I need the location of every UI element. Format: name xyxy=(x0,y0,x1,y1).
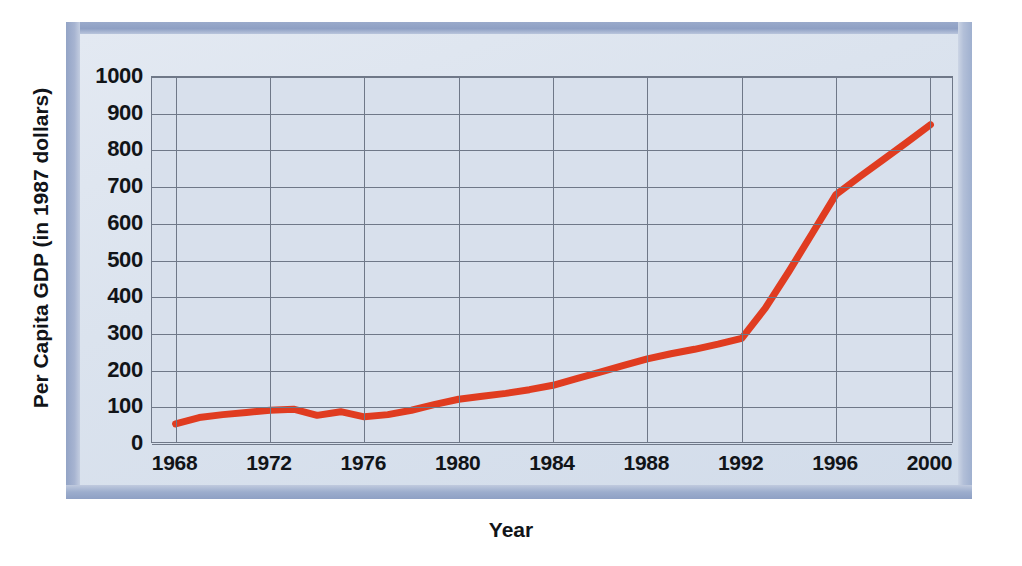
x-axis-title: Year xyxy=(0,518,1022,542)
y-tick-label: 900 xyxy=(57,102,143,124)
x-tick-label: 1992 xyxy=(696,452,786,473)
gridline-horizontal xyxy=(152,334,952,335)
frame-bevel-bottom xyxy=(66,485,972,499)
gridline-vertical xyxy=(930,77,931,442)
gridline-horizontal xyxy=(152,371,952,372)
y-tick-label: 300 xyxy=(57,322,143,344)
gridline-vertical xyxy=(836,77,837,442)
y-tick-label: 0 xyxy=(57,432,143,454)
x-tick-label: 1972 xyxy=(224,452,314,473)
gridline-horizontal xyxy=(152,77,952,78)
y-tick-label: 600 xyxy=(57,212,143,234)
gridline-vertical xyxy=(364,77,365,442)
x-axis-ticks: 196819721976198019841988199219962000 xyxy=(151,452,953,480)
y-axis-ticks: 01002003004005006007008009001000 xyxy=(55,76,143,443)
plot-area xyxy=(151,76,953,443)
y-axis-title: Per Capita GDP (in 1987 dollars) xyxy=(29,38,53,458)
gridline-vertical xyxy=(459,77,460,442)
gridline-horizontal xyxy=(152,224,952,225)
gridline-vertical xyxy=(647,77,648,442)
y-tick-label: 800 xyxy=(57,138,143,160)
x-tick-label: 1976 xyxy=(318,452,408,473)
y-tick-label: 700 xyxy=(57,175,143,197)
gridline-horizontal xyxy=(152,187,952,188)
y-tick-label: 400 xyxy=(57,285,143,307)
frame-bevel-right xyxy=(958,22,972,499)
gridline-vertical xyxy=(553,77,554,442)
gridline-vertical xyxy=(742,77,743,442)
gridline-horizontal xyxy=(152,297,952,298)
x-tick-label: 1984 xyxy=(507,452,597,473)
gridline-vertical xyxy=(176,77,177,442)
y-tick-label: 500 xyxy=(57,249,143,271)
frame-bevel-top xyxy=(66,22,972,34)
y-tick-label: 100 xyxy=(57,395,143,417)
gridline-horizontal xyxy=(152,114,952,115)
y-tick-label: 200 xyxy=(57,359,143,381)
x-tick-label: 1988 xyxy=(601,452,691,473)
gridline-horizontal xyxy=(152,407,952,408)
x-tick-label: 1968 xyxy=(130,452,220,473)
gridline-vertical xyxy=(270,77,271,442)
chart-figure: 01002003004005006007008009001000 1968197… xyxy=(0,0,1022,566)
gridline-horizontal xyxy=(152,150,952,151)
gridline-horizontal xyxy=(152,444,952,445)
y-tick-label: 1000 xyxy=(57,65,143,87)
gridline-horizontal xyxy=(152,261,952,262)
x-tick-label: 2000 xyxy=(884,452,974,473)
x-tick-label: 1996 xyxy=(790,452,880,473)
x-tick-label: 1980 xyxy=(413,452,503,473)
